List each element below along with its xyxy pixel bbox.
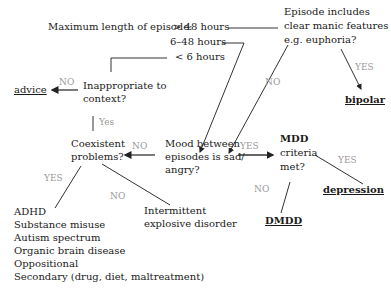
mood-question-line-1: Mood between [165, 138, 240, 151]
edge-label-mdd-no: NO [254, 184, 269, 194]
edge-label-inappropriate-no: NO [59, 77, 74, 87]
outcome-dmdd: DMDD [265, 215, 302, 228]
edge-label-manic-yes: YES [355, 62, 374, 72]
option-under-6-hours: < 6 hours [175, 51, 225, 64]
edge-label-manic-no: NO [265, 77, 280, 87]
comorbid-item-organic: Organic brain disease [14, 245, 125, 258]
mdd-question-line-1: MDD [280, 133, 308, 146]
edge-label-inappropriate-yes: Yes [99, 117, 114, 127]
edge-label-mood-yes: YES [240, 141, 259, 151]
manic-features-question-line-3: e.g. euphoria? [284, 34, 356, 47]
comorbid-item-secondary: Secondary (drug, diet, maltreatment) [14, 271, 204, 284]
coexistent-question-line-2: problems? [71, 151, 124, 164]
option-6-48-hours: 6–48 hours [170, 36, 226, 49]
mood-question-line-2: episodes is sad/ [165, 151, 245, 164]
outcome-depression: depression [323, 184, 384, 197]
outcome-advice: advice [14, 84, 47, 97]
inappropriate-question-line-1: Inappropriate to [83, 80, 166, 93]
coexistent-question-line-1: Coexistent [71, 138, 125, 151]
comorbid-item-substance: Substance misuse [14, 219, 105, 232]
edge-label-coexistent-yes: YES [44, 173, 63, 183]
option-over-48-hours: > 48 hours [173, 21, 229, 34]
manic-features-question-line-2: clear manic features [284, 20, 388, 33]
mood-question-line-3: angry? [165, 164, 200, 177]
episode-length-question: Maximum length of episode: [48, 21, 192, 34]
comorbid-item-autism: Autism spectrum [14, 232, 100, 245]
mdd-question-line-2: criteria [280, 147, 317, 160]
comorbid-item-oppositional: Oppositional [14, 258, 78, 271]
edge-label-mood-no: NO [132, 141, 147, 151]
outcome-intermittent-line-1: Intermittent [144, 205, 206, 218]
edge-label-mdd-yes: YES [338, 155, 357, 165]
edge-label-coexistent-no: NO [110, 191, 125, 201]
comorbid-item-adhd: ADHD [14, 206, 46, 219]
outcome-intermittent-line-2: explosive disorder [144, 218, 237, 231]
manic-features-question-line-1: Episode includes [284, 6, 370, 19]
outcome-bipolar: bipolar [345, 94, 385, 107]
mdd-question-line-3: met? [280, 161, 305, 174]
inappropriate-question-line-2: context? [83, 93, 126, 106]
